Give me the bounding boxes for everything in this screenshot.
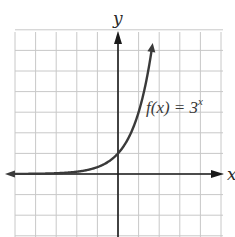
function-curve bbox=[13, 52, 151, 174]
y-axis-arrow-icon bbox=[114, 31, 122, 44]
x-axis-label: x bbox=[227, 164, 235, 184]
curve-arrow-icon bbox=[147, 43, 155, 53]
axes bbox=[15, 31, 224, 237]
grid bbox=[15, 30, 223, 237]
exponential-graph: y x f(x) = 3x bbox=[0, 0, 235, 237]
function-label-exponent: x bbox=[197, 95, 203, 107]
function-label: f(x) = 3x bbox=[146, 95, 203, 117]
curve-left-arrow-icon bbox=[5, 170, 15, 177]
function-label-base: f(x) = 3 bbox=[146, 98, 198, 117]
x-axis-arrow-icon bbox=[211, 170, 224, 178]
y-axis-label: y bbox=[112, 8, 123, 28]
